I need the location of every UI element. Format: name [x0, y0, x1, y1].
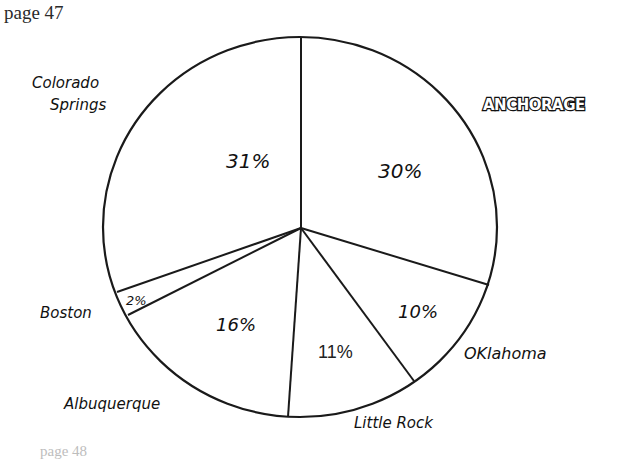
value-oklahoma: 10% — [398, 301, 438, 322]
label-albuquerque: Albuquerque — [63, 395, 160, 413]
boundary-littlerock-albuquerque — [288, 228, 301, 417]
boundary-boston-colorado — [117, 228, 301, 292]
page-number-bottom: page 48 — [40, 443, 87, 460]
label-anchorage: ANCHORAGE — [483, 96, 585, 114]
value-boston: 2% — [126, 293, 147, 308]
label-colorado-springs-line1: Colorado — [32, 74, 99, 92]
slice-boundaries — [117, 37, 489, 417]
label-boston: Boston — [40, 304, 92, 322]
boundary-anchorage-oklahoma — [301, 228, 489, 285]
value-little-rock: 11% — [318, 342, 353, 362]
value-albuquerque: 16% — [216, 314, 256, 335]
label-little-rock: Little Rock — [354, 414, 434, 432]
value-anchorage: 30% — [378, 159, 422, 183]
label-oklahoma: OKlahoma — [464, 344, 547, 363]
boundary-albuquerque-boston — [128, 228, 301, 315]
value-colorado-springs: 31% — [226, 149, 270, 173]
label-colorado-springs-line2: Springs — [50, 96, 106, 114]
